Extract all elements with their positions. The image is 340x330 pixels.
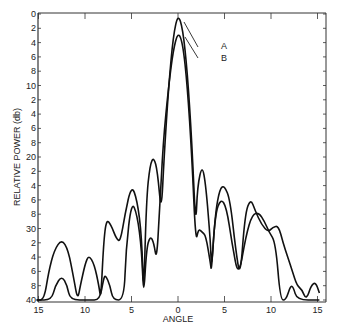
y-tick-label: 4 bbox=[31, 109, 36, 119]
y-tick-label: 4 bbox=[31, 252, 36, 262]
x-axis-title: ANGLE bbox=[163, 314, 194, 324]
y-tick-label: 6 bbox=[31, 266, 36, 276]
y-tick-label: 8 bbox=[31, 138, 36, 148]
y-tick-label: 40 bbox=[26, 295, 36, 305]
y-tick-label: 2 bbox=[31, 95, 36, 105]
y-tick-label: 6 bbox=[31, 123, 36, 133]
y-tick-label: 0 bbox=[31, 9, 36, 19]
y-tick-label: 2 bbox=[31, 238, 36, 248]
annotation-b: B bbox=[221, 53, 227, 63]
y-axis-title: RELATIVE POWER (db) bbox=[12, 108, 22, 206]
data-curves bbox=[37, 18, 320, 300]
y-tick-label: 6 bbox=[31, 195, 36, 205]
x-tick-label: 10 bbox=[266, 305, 276, 315]
curve-b bbox=[37, 35, 320, 300]
y-tick-label: 6 bbox=[31, 52, 36, 62]
y-tick-label: 2 bbox=[31, 23, 36, 33]
arrow-a bbox=[184, 22, 198, 47]
x-tick-label: 10 bbox=[80, 305, 90, 315]
y-tick-label: 20 bbox=[26, 152, 36, 162]
annotations: A B bbox=[184, 22, 227, 63]
y-tick-label: 30 bbox=[26, 224, 36, 234]
y-tick-label: 8 bbox=[31, 66, 36, 76]
y-tick-label: 2 bbox=[31, 166, 36, 176]
x-tick-label: 5 bbox=[129, 305, 134, 315]
y-tick-label: 8 bbox=[31, 209, 36, 219]
annotation-a: A bbox=[221, 41, 227, 51]
arrow-b bbox=[185, 37, 198, 58]
x-tick-label: 5 bbox=[222, 305, 227, 315]
y-tick-label: 8 bbox=[31, 281, 36, 291]
x-tick-label: 15 bbox=[312, 305, 322, 315]
antenna-pattern-chart: 0246810246820246830246840 15105051015 A … bbox=[0, 0, 340, 330]
y-tick-label: 4 bbox=[31, 181, 36, 191]
y-tick-label: 4 bbox=[31, 38, 36, 48]
plot-frame bbox=[38, 13, 326, 302]
x-tick-label: 15 bbox=[33, 305, 43, 315]
y-tick-label: 10 bbox=[26, 81, 36, 91]
x-axis: 15105051015 bbox=[33, 13, 322, 315]
